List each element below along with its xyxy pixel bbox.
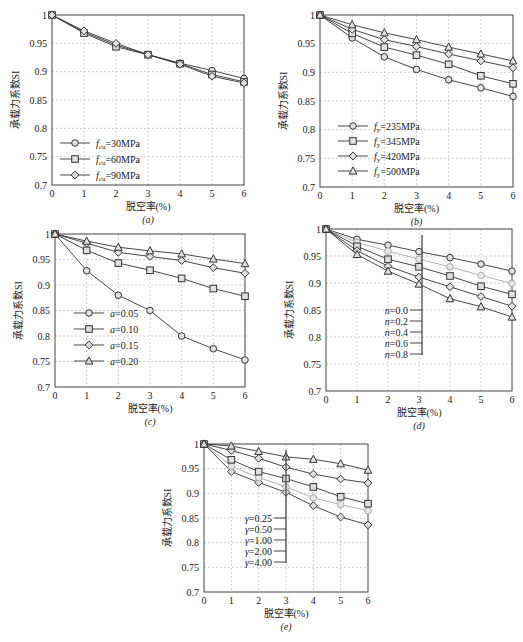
legend-marker [349, 167, 357, 174]
legend-label-value: =4.00 [249, 557, 272, 568]
data-point [447, 254, 454, 261]
x-axis-label: 脱空率(%) [128, 402, 173, 415]
x-tick-label: 3 [284, 595, 289, 606]
x-tick-label: 1 [229, 595, 234, 606]
legend-label-value: =0.8 [390, 349, 408, 360]
y-tick-label: 1 [45, 229, 50, 240]
data-point [365, 500, 372, 507]
data-point [509, 268, 516, 275]
data-point [445, 50, 453, 58]
legend-label-value: =0.05 [115, 308, 138, 319]
legend: fy=235MPafy=345MPafy=420MPafy=500MPa [338, 121, 420, 179]
legend-label: n=0.0 [385, 305, 408, 316]
legend-entry: a=0.15 [74, 340, 138, 351]
data-point [478, 261, 485, 268]
y-tick-label: 0.85 [30, 95, 48, 106]
y-tick-label: 0.75 [182, 562, 200, 573]
data-point [478, 85, 485, 92]
x-tick-label: 6 [510, 394, 515, 405]
legend-label: γ=1.00 [245, 535, 272, 546]
data-point [115, 260, 122, 267]
legend-label: γ=4.00 [245, 557, 272, 568]
data-point [255, 454, 263, 462]
y-tick-label: 0.85 [298, 96, 316, 107]
legend-label-value: =420MPa [380, 151, 420, 162]
legend-entry: fcu=30MPa [60, 138, 140, 151]
data-point [365, 507, 372, 514]
legend-label-value: =0.20 [115, 356, 138, 367]
y-axis-label: 承载力系数SI [12, 281, 24, 340]
y-tick-label: 0.95 [298, 38, 316, 49]
y-tick-label: 0.7 [38, 382, 51, 393]
y-tick-label: 0.9 [38, 280, 51, 291]
x-tick-label: 3 [417, 394, 422, 405]
legend-marker [86, 326, 93, 333]
data-point [178, 333, 185, 340]
x-axis-label: 脱空率(%) [397, 406, 442, 419]
y-tick-label: 0.8 [35, 123, 48, 134]
series-a=0.10 [52, 231, 249, 300]
data-point [381, 44, 388, 51]
y-tick-label: 0.95 [33, 254, 51, 265]
x-tick-label: 5 [338, 595, 343, 606]
data-point [337, 493, 344, 500]
legend: fcu=30MPafcu=60MPafcu=90MPa [60, 138, 140, 183]
legend-label: γ=0.25 [245, 513, 272, 524]
legend-label-value: =0.50 [249, 524, 272, 535]
legend-marker [85, 341, 93, 349]
legend-label: a=0.10 [110, 324, 138, 335]
data-point [228, 463, 235, 470]
data-point [147, 267, 154, 274]
legend-label-value: =500MPa [380, 166, 420, 177]
y-tick-label: 0.75 [298, 153, 316, 164]
legend-label: n=0.4 [385, 327, 408, 338]
legend-label: a=0.20 [110, 356, 138, 367]
x-tick-label: 4 [178, 188, 183, 199]
x-tick-label: 2 [116, 390, 121, 401]
data-point [310, 484, 317, 491]
legend-label-value: =0.10 [115, 324, 138, 335]
y-tick-label: 0.95 [304, 251, 322, 262]
panel-caption: (d) [413, 420, 425, 432]
legend-entry: γ=2.00 [245, 546, 286, 557]
panel-caption: (c) [144, 416, 156, 428]
data-point [447, 273, 454, 280]
data-point [147, 307, 154, 314]
y-tick-label: 0.8 [38, 331, 51, 342]
x-tick-label: 6 [366, 595, 371, 606]
data-point [478, 283, 485, 290]
legend-label-value: =0.15 [115, 340, 138, 351]
panel-caption: (e) [280, 621, 292, 633]
data-point [115, 292, 122, 299]
legend-label: a=0.15 [110, 340, 138, 351]
x-tick-label: 0 [202, 595, 207, 606]
x-tick-label: 1 [84, 390, 89, 401]
data-point [337, 501, 344, 508]
x-tick-label: 1 [350, 190, 355, 201]
data-point [478, 72, 485, 79]
data-point [255, 468, 262, 475]
data-point [178, 275, 185, 282]
x-tick-label: 6 [243, 390, 248, 401]
data-point [364, 479, 372, 487]
y-tick-label: 1 [310, 10, 315, 21]
y-tick-label: 0.7 [35, 180, 48, 191]
data-point [509, 280, 516, 287]
legend-entry: γ=0.50 [245, 524, 286, 535]
data-point [445, 61, 452, 68]
data-point [446, 295, 454, 302]
y-tick-label: 0.9 [303, 67, 316, 78]
panel-caption: (a) [142, 214, 154, 226]
x-axis-label: 脱空率(%) [264, 607, 309, 620]
legend-entry: a=0.20 [74, 356, 138, 367]
legend-marker [71, 171, 79, 179]
data-point [228, 456, 235, 463]
x-tick-label: 2 [256, 595, 261, 606]
x-tick-label: 6 [242, 188, 247, 199]
legend-entry: fy=500MPa [338, 166, 420, 179]
data-point [447, 264, 454, 271]
y-tick-label: 0.8 [309, 332, 322, 343]
y-tick-label: 0.8 [303, 124, 316, 135]
legend-label-value: =60MPa [105, 154, 140, 165]
data-point [178, 257, 186, 265]
